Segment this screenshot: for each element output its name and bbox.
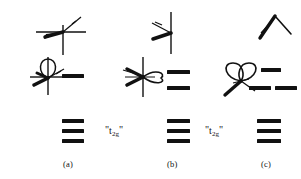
orbital-icon-b-middle [121, 55, 173, 99]
panel-c: "t2g" (c) [201, 0, 301, 179]
level-bar [167, 129, 190, 133]
term-label-quote-close: " [219, 124, 223, 135]
orbital-splitting-figure: (a) [0, 0, 301, 179]
term-label-b: "t2g" [105, 125, 123, 138]
orbital-icon-a-upper [32, 12, 92, 56]
level-bar [167, 86, 190, 90]
level-bar [249, 86, 271, 90]
level-bar [167, 70, 190, 74]
level-bar [167, 119, 190, 123]
term-label-c: "t2g" [205, 125, 223, 138]
level-bar [62, 129, 84, 133]
level-bar [275, 86, 297, 90]
level-bar [62, 74, 84, 78]
panel-caption-b: (b) [167, 160, 178, 169]
panel-a: (a) [0, 0, 101, 179]
level-bar [257, 139, 281, 143]
level-bar [62, 119, 84, 123]
panel-caption-a: (a) [63, 160, 73, 169]
panel-caption-c: (c) [261, 160, 271, 169]
term-label-subscript: 2g [112, 130, 119, 138]
term-label-quote-close: " [119, 124, 123, 135]
orbital-icon-c-middle [215, 57, 265, 101]
level-bar [62, 139, 84, 143]
level-bar [167, 139, 190, 143]
orbital-icon-c-upper [255, 12, 297, 44]
panel-b: "t2g" (b) [101, 0, 201, 179]
level-bar [257, 119, 281, 123]
term-label-subscript: 2g [212, 130, 219, 138]
level-bar [257, 129, 281, 133]
orbital-icon-b-upper [145, 10, 185, 56]
level-bar [261, 68, 281, 72]
